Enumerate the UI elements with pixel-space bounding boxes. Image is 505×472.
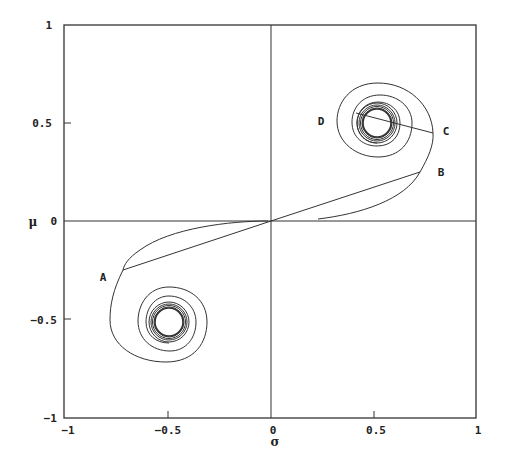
lower-spiral-trajectory: [110, 221, 268, 362]
y-tick-1: 1: [45, 19, 52, 32]
y-tick-neg0.5: −0.5: [31, 314, 58, 327]
x-tick-1: 1: [475, 424, 482, 437]
upper-limit-cycle: [357, 103, 397, 143]
point-label-C: C: [443, 125, 450, 138]
point-label-B: B: [438, 166, 445, 179]
y-tick-0.5: 0.5: [32, 117, 52, 130]
y-tick-0: 0: [50, 215, 57, 228]
point-label-D: D: [318, 115, 325, 128]
segment-origin-B: [271, 172, 420, 221]
point-label-A: A: [100, 271, 107, 284]
y-tick-neg1: −1: [44, 412, 58, 425]
x-tick-0.5: 0.5: [366, 424, 386, 437]
lower-limit-cycle: [149, 302, 189, 342]
y-axis-label: μ: [29, 215, 38, 229]
x-tick-neg0.5: −0.5: [155, 424, 182, 437]
segment-C-D: [356, 113, 433, 133]
x-axis-label: σ: [271, 435, 280, 449]
ticks: [64, 123, 374, 418]
x-tick-neg1: −1: [61, 424, 75, 437]
phase-plot: 1 0.5 0 −0.5 −1 μ −1 −0.5 0 0.5 1 σ A B …: [0, 0, 505, 472]
